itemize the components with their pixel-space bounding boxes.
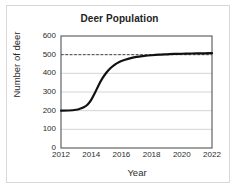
x-tick-label-2022: 2022 <box>197 150 227 159</box>
y-tick-label-100: 100 <box>32 124 56 133</box>
gridlines <box>61 55 212 130</box>
y-tick-label-300: 300 <box>32 87 56 96</box>
x-tick-label-2014: 2014 <box>76 150 106 159</box>
x-tick-label-2018: 2018 <box>137 150 167 159</box>
x-tick-label-2012: 2012 <box>46 150 76 159</box>
chart-figure: Deer Population Number of deer Year 0100… <box>0 0 239 191</box>
series-path-0 <box>61 53 212 111</box>
y-tick-label-200: 200 <box>32 106 56 115</box>
deer-population-line <box>61 53 212 111</box>
x-tick-label-2016: 2016 <box>106 150 136 159</box>
x-tick-label-2020: 2020 <box>167 150 197 159</box>
y-tick-label-400: 400 <box>32 68 56 77</box>
y-tick-label-600: 600 <box>32 31 56 40</box>
y-tick-label-500: 500 <box>32 50 56 59</box>
